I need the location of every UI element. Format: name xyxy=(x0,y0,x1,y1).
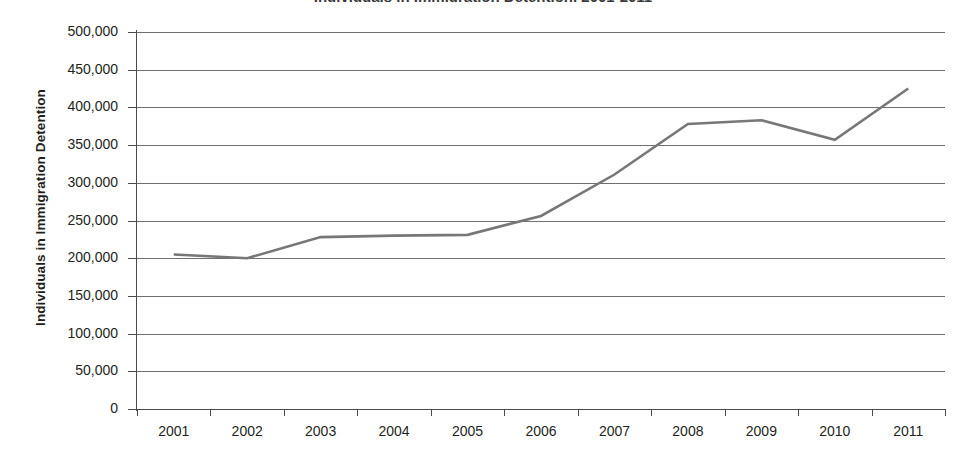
x-axis-tick-label: 2001 xyxy=(134,423,214,439)
x-axis-tick xyxy=(357,409,358,416)
y-axis-tick xyxy=(128,32,137,33)
y-axis-tick-label: 400,000 xyxy=(0,99,118,113)
x-axis-tick xyxy=(137,409,138,416)
y-axis-tick xyxy=(128,258,137,259)
y-axis-tick-label: 100,000 xyxy=(0,326,118,340)
x-axis-tick xyxy=(798,409,799,416)
x-axis-tick-label: 2004 xyxy=(354,423,434,439)
x-axis-tick xyxy=(872,409,873,416)
y-axis-tick-label: 350,000 xyxy=(0,137,118,151)
x-axis-line xyxy=(136,409,946,410)
y-axis-tick xyxy=(128,70,137,71)
x-axis-tick-label: 2006 xyxy=(501,423,581,439)
y-axis-tick-label: 450,000 xyxy=(0,62,118,76)
y-axis-tick-label: 150,000 xyxy=(0,288,118,302)
y-axis-tick xyxy=(128,296,137,297)
x-axis-tick xyxy=(725,409,726,416)
x-axis-tick-label: 2010 xyxy=(795,423,875,439)
y-axis-tick xyxy=(128,107,137,108)
x-axis-tick-label: 2008 xyxy=(648,423,728,439)
series-line xyxy=(137,32,945,409)
y-axis-tick xyxy=(128,334,137,335)
y-axis-tick xyxy=(128,371,137,372)
x-axis-tick-label: 2003 xyxy=(281,423,361,439)
series-polyline xyxy=(174,89,909,259)
y-axis-tick xyxy=(128,145,137,146)
y-axis-tick xyxy=(128,183,137,184)
x-axis-tick xyxy=(210,409,211,416)
y-axis-tick-label: 500,000 xyxy=(0,24,118,38)
x-axis-tick xyxy=(578,409,579,416)
x-axis-tick-label: 2007 xyxy=(574,423,654,439)
x-axis-tick-label: 2011 xyxy=(868,423,948,439)
y-axis-tick-label: 300,000 xyxy=(0,175,118,189)
x-axis-tick-label: 2002 xyxy=(207,423,287,439)
x-axis-tick-label: 2009 xyxy=(721,423,801,439)
line-chart: Individuals in Immigration Detention, 20… xyxy=(0,0,966,470)
x-axis-tick xyxy=(945,409,946,416)
x-axis-tick xyxy=(284,409,285,416)
y-axis-tick-label: 250,000 xyxy=(0,213,118,227)
y-axis-tick-label: 0 xyxy=(0,401,118,415)
y-axis-tick xyxy=(128,221,137,222)
y-axis-tick-label: 50,000 xyxy=(0,363,118,377)
x-axis-tick xyxy=(651,409,652,416)
x-axis-tick-label: 2005 xyxy=(428,423,508,439)
chart-title: Individuals in Immigration Detention, 20… xyxy=(0,0,966,2)
y-axis-tick-label: 200,000 xyxy=(0,250,118,264)
x-axis-tick xyxy=(431,409,432,416)
x-axis-tick xyxy=(504,409,505,416)
